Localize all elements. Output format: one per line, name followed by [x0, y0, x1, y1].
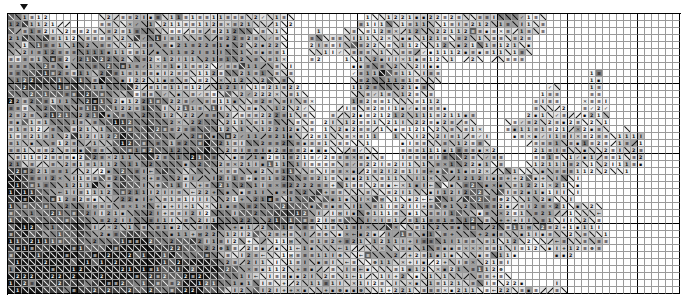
- stitch-cell[interactable]: [218, 259, 225, 266]
- stitch-cell[interactable]: [113, 126, 120, 133]
- stitch-cell[interactable]: 1: [239, 273, 246, 280]
- stitch-cell[interactable]: [148, 245, 155, 252]
- stitch-cell[interactable]: [99, 287, 106, 294]
- stitch-cell[interactable]: 1: [288, 245, 295, 252]
- stitch-cell[interactable]: 2: [120, 280, 127, 287]
- stitch-cell[interactable]: ←: [358, 252, 365, 259]
- stitch-cell[interactable]: [575, 252, 582, 259]
- stitch-cell[interactable]: ≡: [302, 217, 309, 224]
- stitch-cell[interactable]: ≡: [169, 28, 176, 35]
- stitch-cell[interactable]: 1: [372, 28, 379, 35]
- stitch-cell[interactable]: [190, 280, 197, 287]
- stitch-cell[interactable]: 2: [526, 182, 533, 189]
- stitch-cell[interactable]: [351, 217, 358, 224]
- stitch-cell[interactable]: 1: [274, 266, 281, 273]
- stitch-cell[interactable]: [519, 238, 526, 245]
- stitch-cell[interactable]: [512, 98, 519, 105]
- stitch-cell[interactable]: ≡: [127, 238, 134, 245]
- stitch-cell[interactable]: [120, 224, 127, 231]
- stitch-cell[interactable]: [463, 266, 470, 273]
- stitch-cell[interactable]: [85, 154, 92, 161]
- stitch-cell[interactable]: [645, 203, 652, 210]
- stitch-cell[interactable]: [295, 189, 302, 196]
- stitch-cell[interactable]: ✓: [575, 154, 582, 161]
- stitch-cell[interactable]: [498, 189, 505, 196]
- stitch-cell[interactable]: ≡: [337, 189, 344, 196]
- stitch-cell[interactable]: [323, 266, 330, 273]
- stitch-cell[interactable]: ≡: [582, 245, 589, 252]
- stitch-cell[interactable]: [624, 210, 631, 217]
- stitch-cell[interactable]: [302, 238, 309, 245]
- stitch-cell[interactable]: [624, 273, 631, 280]
- stitch-cell[interactable]: ✕: [575, 133, 582, 140]
- stitch-cell[interactable]: I: [344, 266, 351, 273]
- stitch-cell[interactable]: 2: [421, 266, 428, 273]
- stitch-cell[interactable]: 1: [169, 147, 176, 154]
- stitch-cell[interactable]: ≡: [253, 70, 260, 77]
- stitch-cell[interactable]: [477, 182, 484, 189]
- stitch-cell[interactable]: 1: [92, 140, 99, 147]
- stitch-cell[interactable]: [134, 154, 141, 161]
- stitch-cell[interactable]: ≡: [498, 154, 505, 161]
- stitch-cell[interactable]: [8, 182, 15, 189]
- stitch-cell[interactable]: [8, 168, 15, 175]
- stitch-cell[interactable]: [491, 168, 498, 175]
- stitch-cell[interactable]: ≡: [337, 140, 344, 147]
- stitch-cell[interactable]: ▪: [414, 280, 421, 287]
- stitch-cell[interactable]: [659, 168, 666, 175]
- stitch-cell[interactable]: [603, 280, 610, 287]
- stitch-cell[interactable]: 2: [372, 182, 379, 189]
- stitch-cell[interactable]: [92, 273, 99, 280]
- stitch-cell[interactable]: ≡: [190, 21, 197, 28]
- stitch-cell[interactable]: 2: [176, 280, 183, 287]
- stitch-cell[interactable]: [211, 182, 218, 189]
- stitch-cell[interactable]: 2: [267, 42, 274, 49]
- stitch-cell[interactable]: ▪: [554, 252, 561, 259]
- stitch-cell[interactable]: ≡: [323, 203, 330, 210]
- stitch-cell[interactable]: 2: [365, 161, 372, 168]
- stitch-cell[interactable]: [197, 168, 204, 175]
- stitch-cell[interactable]: 1: [414, 21, 421, 28]
- stitch-cell[interactable]: [463, 84, 470, 91]
- stitch-cell[interactable]: ≡: [267, 196, 274, 203]
- stitch-cell[interactable]: [575, 98, 582, 105]
- stitch-cell[interactable]: [85, 217, 92, 224]
- stitch-cell[interactable]: [281, 210, 288, 217]
- stitch-cell[interactable]: ≡: [463, 182, 470, 189]
- stitch-cell[interactable]: [148, 182, 155, 189]
- stitch-cell[interactable]: [393, 231, 400, 238]
- stitch-cell[interactable]: 1: [246, 63, 253, 70]
- stitch-cell[interactable]: [155, 28, 162, 35]
- stitch-cell[interactable]: 1: [36, 42, 43, 49]
- stitch-cell[interactable]: [225, 49, 232, 56]
- stitch-cell[interactable]: [666, 231, 673, 238]
- stitch-cell[interactable]: 2: [463, 189, 470, 196]
- stitch-cell[interactable]: +: [407, 252, 414, 259]
- stitch-cell[interactable]: [225, 217, 232, 224]
- stitch-cell[interactable]: [267, 210, 274, 217]
- stitch-cell[interactable]: ≡: [169, 126, 176, 133]
- stitch-cell[interactable]: [183, 189, 190, 196]
- stitch-cell[interactable]: ≡: [134, 168, 141, 175]
- stitch-cell[interactable]: ≡: [71, 126, 78, 133]
- stitch-cell[interactable]: [512, 266, 519, 273]
- stitch-cell[interactable]: ≡: [225, 252, 232, 259]
- stitch-cell[interactable]: 1: [484, 266, 491, 273]
- stitch-cell[interactable]: ▪: [400, 105, 407, 112]
- stitch-cell[interactable]: ▪: [561, 252, 568, 259]
- stitch-cell[interactable]: ←: [351, 231, 358, 238]
- stitch-cell[interactable]: [365, 203, 372, 210]
- stitch-cell[interactable]: I: [120, 217, 127, 224]
- stitch-cell[interactable]: [8, 14, 15, 21]
- stitch-cell[interactable]: [666, 161, 673, 168]
- stitch-cell[interactable]: 1: [631, 133, 638, 140]
- stitch-cell[interactable]: ≡: [15, 133, 22, 140]
- stitch-cell[interactable]: ≡: [526, 35, 533, 42]
- stitch-cell[interactable]: [218, 196, 225, 203]
- stitch-cell[interactable]: [267, 21, 274, 28]
- stitch-cell[interactable]: ≡: [449, 126, 456, 133]
- stitch-cell[interactable]: ≡: [232, 203, 239, 210]
- stitch-cell[interactable]: I: [302, 161, 309, 168]
- stitch-cell[interactable]: [295, 231, 302, 238]
- stitch-cell[interactable]: [15, 42, 22, 49]
